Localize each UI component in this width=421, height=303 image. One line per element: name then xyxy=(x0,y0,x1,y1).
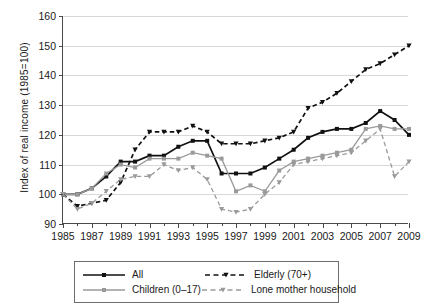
x-tick-mark xyxy=(77,223,78,226)
data-point xyxy=(133,160,137,164)
chart-legend: All Elderly (70+) Children (0–17) Lone m… xyxy=(74,261,339,303)
data-point xyxy=(104,171,108,175)
legend-item-lone-mother: Lone mother household xyxy=(201,284,356,295)
data-point xyxy=(162,157,166,161)
x-tick-mark xyxy=(380,223,381,228)
data-point xyxy=(349,150,354,155)
data-point xyxy=(104,189,109,194)
x-tick-mark xyxy=(279,223,280,226)
data-point xyxy=(277,157,281,161)
data-point xyxy=(292,148,296,152)
data-point xyxy=(234,171,238,175)
y-axis-title: Index of real income (1985=100) xyxy=(19,18,30,218)
legend-row: All Elderly (70+) xyxy=(82,267,331,282)
plot-area: 9010011012013014015016019851987198919911… xyxy=(62,16,408,224)
x-tick-label: 1989 xyxy=(109,230,132,242)
data-point xyxy=(205,177,210,182)
data-point xyxy=(90,186,94,190)
x-tick-label: 2001 xyxy=(282,230,305,242)
x-tick-mark xyxy=(351,223,352,228)
x-tick-mark xyxy=(164,223,165,226)
data-point xyxy=(349,79,354,84)
x-tick-label: 1985 xyxy=(51,230,74,242)
data-point xyxy=(148,157,152,161)
series-line xyxy=(63,111,409,194)
x-tick-label: 1993 xyxy=(167,230,190,242)
data-point xyxy=(349,127,353,131)
x-tick-mark xyxy=(193,223,194,226)
y-tick-mark xyxy=(59,194,63,195)
x-tick-mark xyxy=(150,223,151,228)
data-point xyxy=(133,166,137,170)
x-tick-mark xyxy=(409,223,410,228)
data-point xyxy=(119,163,123,167)
x-tick-mark xyxy=(294,223,295,228)
legend-label-elderly: Elderly (70+) xyxy=(248,269,311,280)
data-point xyxy=(378,109,382,113)
data-point xyxy=(220,157,224,161)
data-point xyxy=(75,192,79,196)
data-point xyxy=(306,136,310,140)
data-point xyxy=(176,130,181,135)
legend-key-all xyxy=(82,270,126,280)
x-tick-mark xyxy=(63,223,64,228)
data-point xyxy=(335,127,339,131)
series-line xyxy=(63,126,409,194)
x-tick-label: 1999 xyxy=(253,230,276,242)
x-tick-mark xyxy=(222,223,223,226)
legend-item-children: Children (0–17) xyxy=(82,284,201,295)
legend-key-elderly xyxy=(204,270,248,280)
legend-key-lone-mother xyxy=(201,285,245,295)
data-point xyxy=(205,139,209,143)
legend-item-all: All xyxy=(82,269,204,280)
data-point xyxy=(393,118,397,122)
data-point xyxy=(191,139,195,143)
data-point xyxy=(263,166,267,170)
x-tick-mark xyxy=(265,223,266,228)
x-tick-label: 1995 xyxy=(195,230,218,242)
x-tick-mark xyxy=(92,223,93,228)
data-point xyxy=(205,130,210,135)
data-point xyxy=(392,52,397,57)
x-tick-mark xyxy=(178,223,179,228)
y-tick-mark xyxy=(59,165,63,166)
data-point xyxy=(234,189,238,193)
data-point xyxy=(248,207,253,212)
data-point xyxy=(248,183,252,187)
data-point xyxy=(75,207,80,212)
legend-key-children xyxy=(82,285,126,295)
y-tick-mark xyxy=(59,16,63,17)
x-tick-mark xyxy=(323,223,324,228)
data-point xyxy=(102,273,106,277)
x-tick-mark xyxy=(395,223,396,226)
y-tick-mark xyxy=(59,75,63,76)
data-point xyxy=(248,171,252,175)
legend-row: Children (0–17) Lone mother household xyxy=(82,282,331,297)
data-point xyxy=(364,121,368,125)
data-point xyxy=(191,151,195,155)
data-point xyxy=(205,154,209,158)
x-tick-mark xyxy=(250,223,251,226)
x-tick-mark xyxy=(121,223,122,228)
y-tick-mark xyxy=(59,105,63,106)
legend-item-elderly: Elderly (70+) xyxy=(204,269,311,280)
x-tick-mark xyxy=(366,223,367,226)
data-point xyxy=(407,133,411,137)
x-tick-label: 2003 xyxy=(311,230,334,242)
x-tick-label: 2007 xyxy=(368,230,391,242)
x-tick-mark xyxy=(337,223,338,226)
series-1 xyxy=(61,109,411,196)
series-4 xyxy=(60,127,411,215)
x-tick-label: 1997 xyxy=(224,230,247,242)
x-tick-mark xyxy=(308,223,309,226)
data-point xyxy=(132,148,137,153)
x-tick-mark xyxy=(135,223,136,226)
data-point xyxy=(392,174,397,179)
x-tick-label: 2005 xyxy=(340,230,363,242)
x-tick-label: 1991 xyxy=(138,230,161,242)
y-tick-mark xyxy=(59,135,63,136)
data-point xyxy=(277,169,281,173)
y-tick-mark xyxy=(59,46,63,47)
series-layer xyxy=(63,16,409,224)
